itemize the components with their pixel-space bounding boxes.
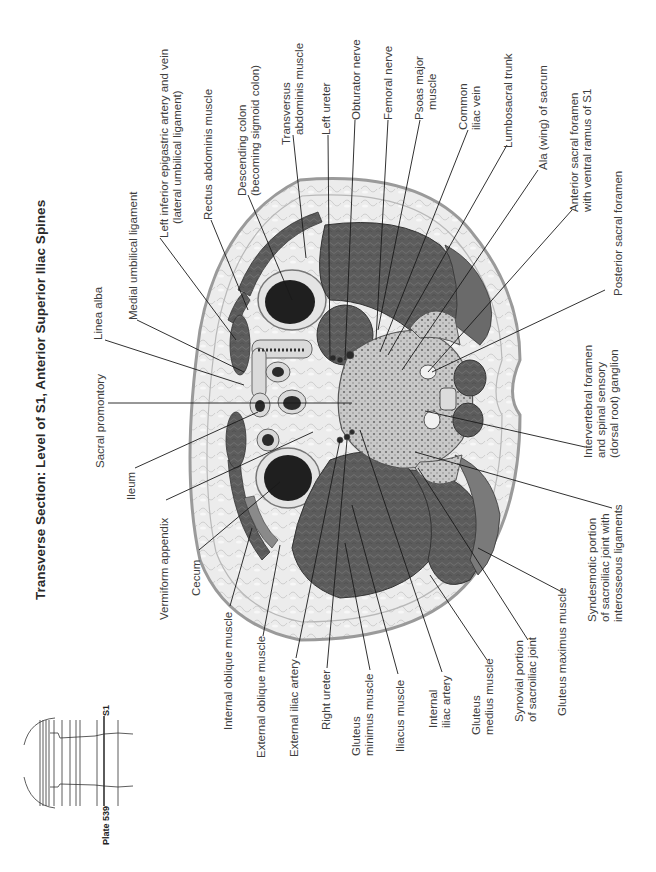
label-left-ureter: Left ureter xyxy=(320,83,333,135)
label-intervertebral-foramen: Intervertebral foramen and spinal sensor… xyxy=(582,345,621,458)
label-common-iliac-vein: Common iliac vein xyxy=(457,83,483,130)
plate-label: Plate 539 xyxy=(100,806,113,845)
label-syndesmotic-portion: Syndesmotic portion of sacroiliac joint … xyxy=(586,504,625,622)
label-cecum: Cecum xyxy=(190,560,203,596)
label-rectus-abdominis: Rectus abdominis muscle xyxy=(202,89,215,220)
label-left-inferior-epigastric: Left inferior epigastric artery and vein… xyxy=(158,49,184,238)
label-linea-alba: Linea alba xyxy=(92,287,105,340)
label-psoas-major: Psoas major muscle xyxy=(413,56,439,120)
label-sacral-promontory: Sacral promontory xyxy=(94,374,107,468)
label-external-oblique: External oblique muscle xyxy=(255,636,268,758)
label-posterior-sacral-foramen: Posterior sacral foramen xyxy=(612,171,625,296)
label-right-ureter: Right ureter xyxy=(320,670,333,730)
label-gluteus-medius: Gluteus medius muscle xyxy=(470,658,496,735)
label-obturator-nerve: Obturator nerve xyxy=(350,39,363,120)
label-ala-of-sacrum: Ala (wing) of sacrum xyxy=(537,65,550,170)
label-lumbosacral-trunk: Lumbosacral trunk xyxy=(502,53,515,148)
rectus-abdominis-shape xyxy=(230,315,250,375)
label-external-iliac-artery: External iliac artery xyxy=(288,659,301,757)
label-ileum: Ileum xyxy=(125,472,138,500)
label-descending-colon: Descending colon (becoming sigmoid colon… xyxy=(236,65,262,196)
label-gluteus-maximus: Gluteus maximus muscle xyxy=(556,588,569,716)
label-femoral-nerve: Femoral nerve xyxy=(382,46,395,120)
paraspinal-lower xyxy=(453,403,483,437)
inset-level-diagram xyxy=(24,716,133,808)
label-iliacus: Iliacus muscle xyxy=(394,680,407,752)
level-label: S1 xyxy=(100,705,113,716)
label-gluteus-minimus: Gluteus minimus muscle xyxy=(350,674,376,756)
page-title: Transverse Section: Level of S1, Anterio… xyxy=(34,200,47,600)
label-vermiform-appendix: Vermiform appendix xyxy=(158,518,171,620)
label-internal-iliac-artery: Internal iliac artery xyxy=(427,676,453,728)
label-internal-oblique: Internal oblique muscle xyxy=(222,612,235,730)
label-anterior-sacral-foramen: Anterior sacral foramen with ventral ram… xyxy=(568,89,594,212)
label-transversus-abdominis: Transversus abdominis muscle xyxy=(280,43,306,145)
label-medial-umbilical-ligament: Medial umbilical ligament xyxy=(127,192,140,320)
paraspinal-upper xyxy=(454,360,486,396)
label-synovial-portion: Synovial portion of sacroiliac joint xyxy=(513,637,539,722)
